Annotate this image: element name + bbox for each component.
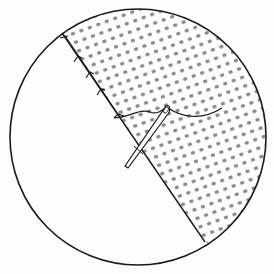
patterned-fabric-region <box>40 0 274 274</box>
diagram-canvas <box>0 0 274 274</box>
stitch-diagram <box>0 0 274 274</box>
